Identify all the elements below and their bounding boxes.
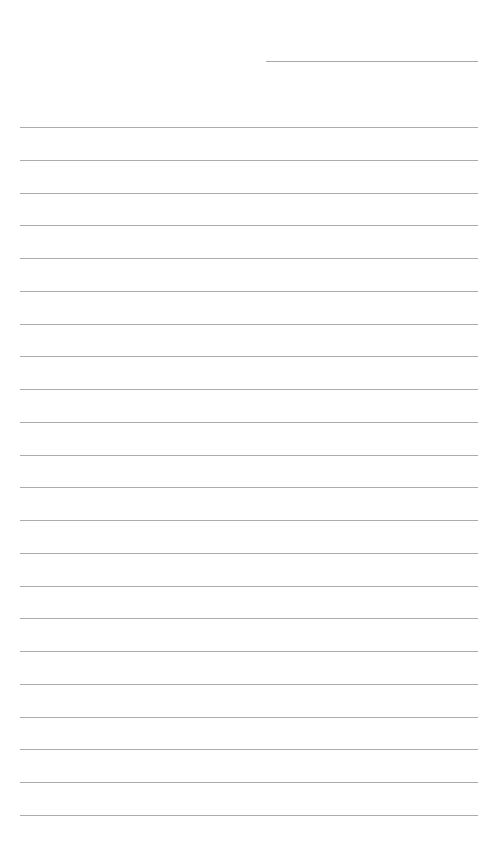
ruled-line — [20, 324, 478, 325]
ruled-line — [20, 782, 478, 783]
ruled-line — [20, 258, 478, 259]
ruled-line — [20, 586, 478, 587]
ruled-line — [20, 291, 478, 292]
ruled-line — [20, 160, 478, 161]
ruled-line — [20, 193, 478, 194]
ruled-line — [20, 520, 478, 521]
ruled-line — [20, 749, 478, 750]
ruled-line — [20, 487, 478, 488]
lined-paper-page — [0, 0, 500, 863]
ruled-line — [20, 127, 478, 128]
ruled-line — [20, 389, 478, 390]
ruled-line — [20, 356, 478, 357]
ruled-line — [20, 618, 478, 619]
ruled-line — [20, 553, 478, 554]
ruled-line — [20, 651, 478, 652]
ruled-line — [20, 684, 478, 685]
header-write-line — [266, 61, 478, 62]
ruled-line — [20, 815, 478, 816]
ruled-line — [20, 455, 478, 456]
ruled-line — [20, 422, 478, 423]
ruled-line — [20, 717, 478, 718]
ruled-line — [20, 225, 478, 226]
